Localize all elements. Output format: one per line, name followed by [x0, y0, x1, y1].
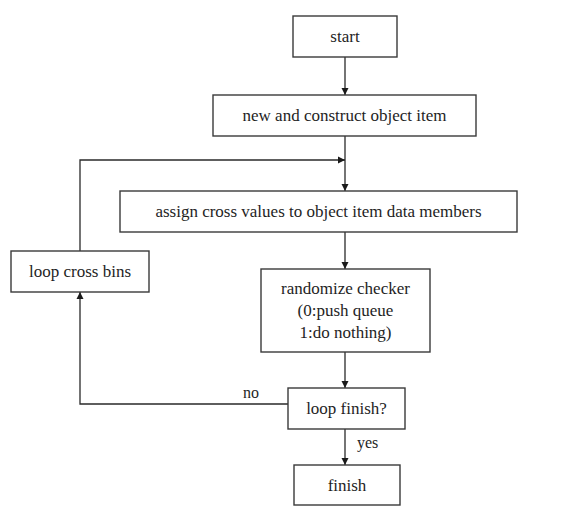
edge-label-no: no [243, 384, 259, 401]
node-loop-cross-bins-label: loop cross bins [29, 262, 131, 281]
node-finish-label: finish [328, 476, 367, 495]
node-assign-label: assign cross values to object item data … [155, 202, 481, 221]
node-loop-finish-label: loop finish? [306, 399, 387, 418]
node-start: start [293, 16, 397, 57]
node-loop-finish: loop finish? [288, 388, 405, 429]
edge-label-yes: yes [357, 434, 378, 452]
node-randomize: randomize checker (0:push queue 1:do not… [261, 269, 430, 352]
node-randomize-line-1: randomize checker [281, 279, 410, 298]
node-construct-label: new and construct object item [243, 106, 447, 125]
flowchart: no yes start new and construct object it… [0, 0, 565, 518]
node-loop-cross-bins: loop cross bins [11, 251, 149, 292]
node-assign: assign cross values to object item data … [120, 191, 517, 232]
node-construct: new and construct object item [213, 95, 476, 136]
node-randomize-line-3: 1:do nothing) [299, 323, 391, 342]
node-randomize-line-2: (0:push queue [298, 301, 394, 320]
node-start-label: start [330, 27, 360, 46]
node-finish: finish [294, 465, 400, 505]
